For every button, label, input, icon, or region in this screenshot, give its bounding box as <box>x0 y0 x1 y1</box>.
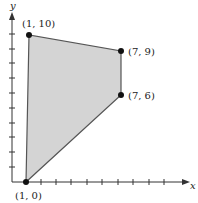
y-axis-label: y <box>9 0 16 11</box>
vertex-dot <box>23 179 29 185</box>
vertex-label: (1, 10) <box>22 18 55 29</box>
vertex-dot <box>26 32 32 38</box>
vertex-label: (1, 0) <box>15 190 42 201</box>
vertex-7-6: (7, 6) <box>118 90 155 101</box>
vertex-label: (7, 6) <box>128 90 155 101</box>
vertex-dot <box>118 92 124 98</box>
feasible-region <box>26 35 121 182</box>
y-axis-arrow-icon <box>9 12 15 20</box>
vertex-1-10: (1, 10) <box>22 18 55 38</box>
y-axis: y <box>9 0 16 182</box>
vertex-7-9: (7, 9) <box>118 46 155 57</box>
x-axis-arrow-icon <box>182 179 190 185</box>
feasible-region-figure: x y (1, 0) (1, 10) (7, 9) (7, 6) <box>0 0 198 203</box>
vertex-label: (7, 9) <box>128 46 155 57</box>
vertex-dot <box>118 48 124 54</box>
x-axis-label: x <box>190 180 196 191</box>
